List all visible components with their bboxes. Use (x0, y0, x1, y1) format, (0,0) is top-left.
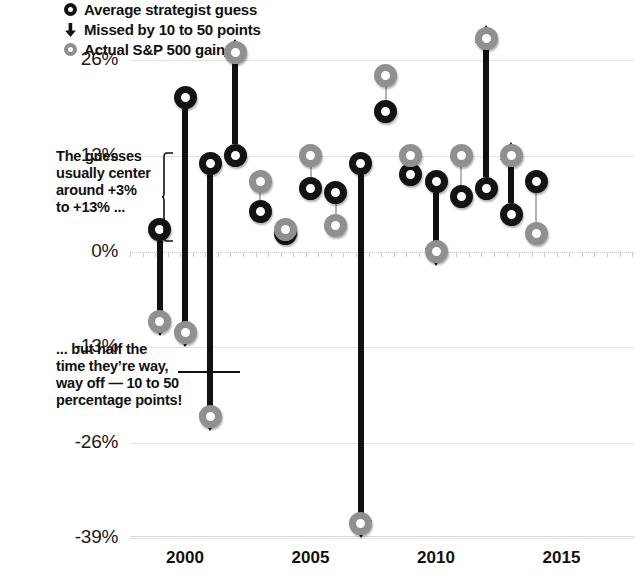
legend-item-guess: Average strategist guess (64, 0, 261, 19)
zero-line-ticks (130, 253, 635, 258)
annotation-upper-line-3: around +3% (56, 182, 164, 199)
black-ring-icon (64, 3, 77, 16)
down-arrow-icon (64, 23, 77, 37)
strategist-guess-marker[interactable] (224, 144, 247, 167)
annotation-lower-line-2: time they’re way, (56, 358, 196, 375)
actual-gain-marker[interactable] (374, 64, 397, 87)
actual-gain-marker[interactable] (450, 144, 473, 167)
annotation-upper-line-1: The guesses (56, 148, 164, 165)
legend-label-guess: Average strategist guess (84, 1, 257, 18)
legend-label-actual: Actual S&P 500 gain (84, 41, 225, 58)
strategist-guess-marker[interactable] (475, 177, 498, 200)
gridline-neg26 (130, 443, 635, 444)
strategist-guess-marker[interactable] (450, 185, 473, 208)
x-axis-tick-2005: 2005 (266, 548, 356, 568)
actual-gain-marker[interactable] (324, 214, 347, 237)
legend-label-missed: Missed by 10 to 50 points (84, 21, 261, 38)
annotation-lower-line-1: ... but half the (56, 341, 196, 358)
miss-arrow-shaft (207, 175, 213, 416)
gridline-26 (130, 60, 635, 61)
strategist-guess-marker[interactable] (425, 170, 448, 193)
strategist-guess-marker[interactable] (324, 181, 347, 204)
actual-gain-marker[interactable] (425, 240, 448, 263)
gridline-neg13 (130, 347, 635, 348)
x-axis-tick-2010: 2010 (391, 548, 481, 568)
actual-gain-marker[interactable] (249, 170, 272, 193)
legend-item-missed: Missed by 10 to 50 points (64, 20, 261, 39)
annotation-lower: ... but half thetime they’re way,way off… (56, 341, 196, 409)
actual-gain-marker[interactable] (475, 27, 498, 50)
x-axis-tick-2000: 2000 (140, 548, 230, 568)
strategist-guess-marker[interactable] (349, 152, 372, 175)
actual-gain-marker[interactable] (525, 222, 548, 245)
actual-gain-marker[interactable] (500, 144, 523, 167)
annotation-upper-line-2: usually center (56, 165, 164, 182)
y-axis-tick-5: -39% (0, 526, 118, 548)
annotation-brace (162, 152, 176, 246)
strategist-guess-marker[interactable] (174, 86, 197, 109)
gray-ring-icon (64, 43, 77, 56)
actual-gain-marker[interactable] (299, 144, 322, 167)
x-axis-line (130, 536, 635, 537)
gridline-neg39 (130, 538, 635, 539)
annotation-upper-line-4: to +13% ... (56, 199, 164, 216)
annotation-upper: The guessesusually centeraround +3%to +1… (56, 148, 164, 216)
miss-arrow-shaft (157, 241, 163, 320)
strategist-guess-marker[interactable] (299, 177, 322, 200)
value-connector (535, 191, 537, 223)
chart-canvas: 26%13%0%-13%-26%-39% 2000200520102015 Av… (0, 0, 635, 577)
annotation-lower-line-3: way off — 10 to 50 (56, 375, 196, 392)
value-connector (460, 165, 462, 186)
miss-arrow-shaft (232, 54, 238, 144)
actual-gain-marker[interactable] (274, 218, 297, 241)
strategist-guess-marker[interactable] (525, 170, 548, 193)
miss-arrow-shaft (182, 109, 188, 331)
miss-arrow-shaft (483, 40, 489, 178)
y-axis-tick-2: 0% (0, 240, 118, 262)
strategist-guess-marker[interactable] (199, 152, 222, 175)
strategist-guess-marker[interactable] (249, 200, 272, 223)
strategist-guess-marker[interactable] (500, 203, 523, 226)
annotation-lower-line-4: percentage points! (56, 392, 196, 409)
actual-gain-marker[interactable] (224, 41, 247, 64)
actual-gain-marker[interactable] (399, 144, 422, 167)
actual-gain-marker[interactable] (199, 405, 222, 428)
x-axis-tick-2015: 2015 (517, 548, 607, 568)
strategist-guess-marker[interactable] (374, 100, 397, 123)
y-axis-tick-4: -26% (0, 431, 118, 453)
miss-arrow-shaft (358, 175, 364, 522)
